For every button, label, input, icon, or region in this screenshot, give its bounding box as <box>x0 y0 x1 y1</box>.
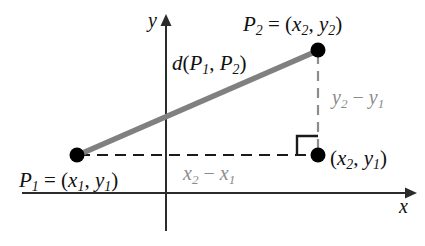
distance-formula-diagram: P2 = (x2, y2) d(P1, P2) y2 − y1 (x2, y1)… <box>0 0 425 246</box>
delta-y-label: y2 − y1 <box>332 87 384 110</box>
y-axis <box>161 14 172 231</box>
distance-label: d(P1, P2) <box>172 53 247 77</box>
point-foot-label: (x2, y1) <box>330 148 387 172</box>
point-p2-label: P2 = (x2, y2) <box>243 14 342 38</box>
point-p2-dot <box>311 43 326 58</box>
delta-x-label: x2 − x1 <box>183 163 235 186</box>
x-axis-label: x <box>399 196 408 216</box>
point-foot-dot <box>311 148 326 163</box>
diagram-canvas <box>0 0 425 246</box>
y-axis-label: y <box>148 10 157 30</box>
y-axis-arrowhead-icon <box>161 14 172 26</box>
point-p1-label: P1 = (x1, y1) <box>19 170 118 194</box>
point-p1-dot <box>70 148 85 163</box>
